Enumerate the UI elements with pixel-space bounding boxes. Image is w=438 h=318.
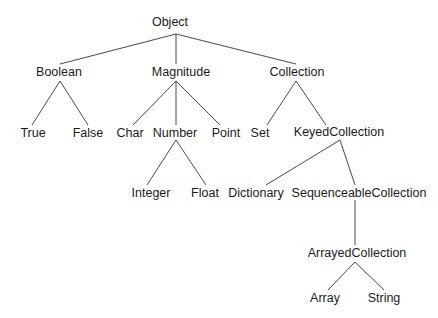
edge-keyedcollection-to-sequenceablecollection (340, 140, 355, 185)
edge-object-to-collection (176, 34, 296, 64)
edge-object-to-boolean (60, 34, 176, 64)
node-dictionary: Dictionary (228, 187, 284, 200)
node-string: String (368, 292, 401, 305)
edge-collection-to-keyedcollection (296, 81, 326, 125)
edge-keyedcollection-to-dictionary (266, 140, 340, 185)
node-set: Set (251, 127, 270, 140)
edge-magnitude-to-point (176, 81, 220, 125)
node-sequenceablecollection: SequenceableCollection (292, 187, 427, 200)
node-true: True (20, 127, 45, 140)
edge-number-to-integer (147, 140, 176, 185)
edge-collection-to-set (267, 81, 296, 125)
edge-arrayedcollection-to-string (355, 262, 384, 290)
node-integer: Integer (132, 187, 171, 200)
node-object: Object (152, 16, 188, 29)
node-number: Number (153, 127, 197, 140)
node-char: Char (116, 127, 143, 140)
class-hierarchy-diagram: ObjectBooleanMagnitudeCollectionTrueFals… (0, 0, 438, 318)
node-false: False (73, 127, 104, 140)
edge-boolean-to-false (60, 81, 88, 125)
tree-edges (0, 0, 438, 318)
edge-arrayedcollection-to-array (328, 262, 355, 290)
node-float: Float (191, 187, 219, 200)
node-boolean: Boolean (36, 66, 82, 79)
node-point: Point (212, 127, 241, 140)
node-array: Array (310, 292, 340, 305)
node-keyedcollection: KeyedCollection (294, 126, 384, 139)
edge-boolean-to-true (32, 81, 60, 125)
edge-number-to-float (176, 140, 206, 185)
node-collection: Collection (270, 66, 325, 79)
node-arrayedcollection: ArrayedCollection (308, 247, 407, 260)
node-magnitude: Magnitude (152, 66, 210, 79)
edge-magnitude-to-char (133, 81, 176, 125)
